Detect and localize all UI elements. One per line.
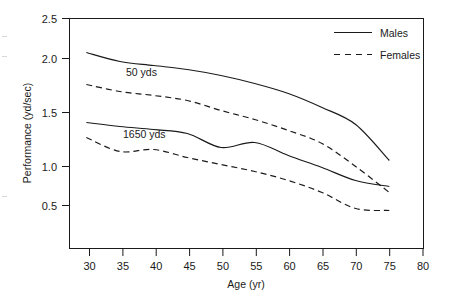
page-edge-artifact <box>2 56 7 57</box>
y-tick-label-1.0: 1.0 <box>42 161 57 173</box>
y-axis-ticks <box>62 19 70 206</box>
x-tick-label-70: 70 <box>350 260 362 272</box>
annotation-50-yds: 50 yds <box>126 66 157 78</box>
y-tick-label-0.5: 0.5 <box>42 200 57 212</box>
y-tick-label-2.0: 2.0 <box>42 53 57 65</box>
x-axis-ticks <box>90 249 424 257</box>
y-tick-labels: 2.5 2.0 1.5 1.0 0.5 <box>42 13 57 212</box>
y-tick-label-1.5: 1.5 <box>42 107 57 119</box>
line-chart: 2.5 2.0 1.5 1.0 0.5 Performance (yd/sec)… <box>0 0 454 294</box>
x-tick-label-80: 80 <box>417 260 429 272</box>
chart-figure: 2.5 2.0 1.5 1.0 0.5 Performance (yd/sec)… <box>0 0 454 294</box>
legend-label-males: Males <box>380 27 408 39</box>
x-tick-labels: 30 35 40 45 50 55 60 65 70 75 80 <box>83 260 429 272</box>
page-edge-artifact <box>2 36 7 37</box>
x-tick-label-35: 35 <box>117 260 129 272</box>
legend-label-females: Females <box>380 49 420 61</box>
y-tick-label-2.5: 2.5 <box>42 13 57 25</box>
x-tick-label-45: 45 <box>183 260 195 272</box>
x-axis-title: Age (yr) <box>227 278 264 290</box>
x-tick-label-60: 60 <box>283 260 295 272</box>
y-axis-title: Performance (yd/sec) <box>21 83 33 183</box>
annotation-1650-yds: 1650 yds <box>123 128 166 140</box>
x-tick-label-40: 40 <box>150 260 162 272</box>
x-tick-label-55: 55 <box>250 260 262 272</box>
x-tick-label-65: 65 <box>317 260 329 272</box>
page-edge-artifact <box>2 196 7 197</box>
x-tick-label-30: 30 <box>83 260 95 272</box>
x-tick-label-75: 75 <box>384 260 396 272</box>
x-tick-label-50: 50 <box>217 260 229 272</box>
